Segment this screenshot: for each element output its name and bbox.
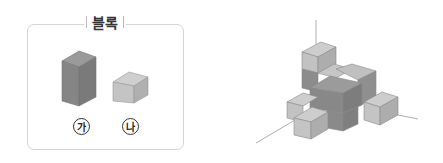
label-ga: 가 <box>73 118 90 135</box>
block-structure <box>287 42 398 139</box>
block-na <box>113 72 148 103</box>
label-ga-text: 가 <box>77 119 86 134</box>
label-na: 나 <box>122 118 139 135</box>
block-ga <box>62 51 96 106</box>
figure-canvas <box>0 0 443 163</box>
label-na-text: 나 <box>126 119 135 134</box>
